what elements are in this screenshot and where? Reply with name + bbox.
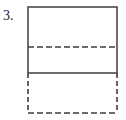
rectangle-diagram [0,0,126,120]
figure-container: 3. [0,0,126,120]
solid-rectangle [28,7,117,73]
